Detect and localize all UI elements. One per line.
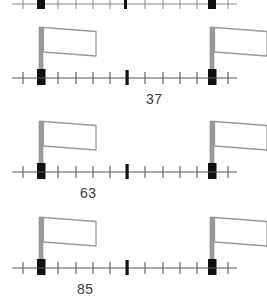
row-label-2: 63 [80, 186, 97, 200]
flag-right-3 [208, 217, 267, 275]
row-label-3: 85 [77, 282, 94, 296]
flag-right-1 [208, 27, 267, 85]
flag-left-1 [37, 27, 96, 85]
numberline-svg-1 [0, 12, 267, 108]
numberline-row-3: 85 [0, 202, 267, 298]
numberline-row-2: 63 [0, 106, 267, 202]
major-tick-1 [126, 70, 129, 85]
clipped-row-svg [0, 0, 267, 9]
clipped-top-row [0, 0, 267, 9]
major-tick-3 [126, 260, 129, 275]
numberline-svg-2 [0, 106, 267, 202]
numberline-svg-3 [0, 202, 267, 298]
row-label-1: 37 [146, 92, 163, 106]
flag-left-2 [37, 121, 96, 179]
diagram-canvas: 37 [0, 0, 267, 303]
flag-left-3 [37, 217, 96, 275]
numberline-row-1: 37 [0, 12, 267, 108]
major-tick-2 [126, 164, 129, 179]
clipped-top-row-content [0, 0, 267, 9]
flag-right-2 [208, 121, 267, 179]
